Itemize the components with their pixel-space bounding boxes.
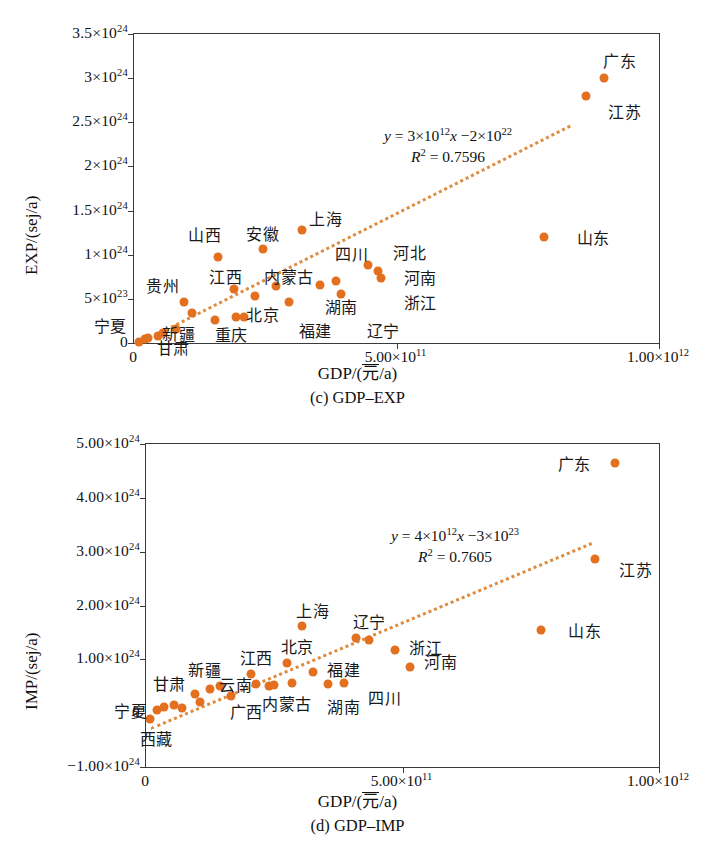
x-tick-label-d-1: 5.00×1011 xyxy=(371,772,433,790)
chart-panel-gdp-exp: EXP/(sej/a) 宁夏甘肃新疆贵州山西重庆江西北京安徽内蒙古福建上海湖南四… xyxy=(0,0,715,420)
x-tick-label-d-2: 1.00×1012 xyxy=(627,772,689,790)
panel-caption-c: (c) GDP–EXP xyxy=(0,388,715,408)
panel-caption-d: (d) GDP–IMP xyxy=(0,816,715,836)
x-axis-title-d: GDP/(元/a) xyxy=(0,792,715,812)
x-tick-label-d-0: 0 xyxy=(141,772,149,790)
x-tick-label-layer-c: 05.00×10111.00×1012 xyxy=(0,0,715,420)
chart-panel-gdp-imp: IMP/(sej/a) 西藏宁夏甘肃新疆云南广西江西内蒙古北京上海福建湖南四川辽… xyxy=(0,420,715,858)
x-axis-title-c: GDP/(元/a) xyxy=(0,364,715,384)
